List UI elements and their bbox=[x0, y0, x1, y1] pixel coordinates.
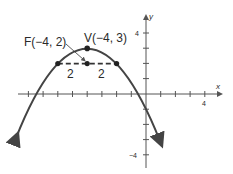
vertex-label: V(−4, 3) bbox=[84, 31, 127, 45]
latus-left-endpoint bbox=[55, 61, 60, 66]
y-tick-label-4: 4 bbox=[135, 30, 139, 37]
y-tick-label-neg4: −4 bbox=[129, 152, 137, 159]
parabola-diagram: x 4 y 4 −4 bbox=[0, 0, 233, 174]
latus-left-half-label: 2 bbox=[67, 67, 74, 81]
focus-label: F(−4, 2) bbox=[24, 35, 66, 49]
focus-point bbox=[85, 61, 90, 66]
x-axis: x 4 bbox=[18, 82, 221, 107]
latus-right-endpoint bbox=[114, 61, 119, 66]
focus-leader-line bbox=[66, 44, 84, 60]
latus-right-half-label: 2 bbox=[98, 67, 105, 81]
y-axis-label: y bbox=[148, 12, 154, 21]
x-axis-label: x bbox=[215, 82, 221, 91]
x-tick-label-4: 4 bbox=[202, 100, 206, 107]
vertex-point bbox=[84, 46, 90, 52]
y-axis: y 4 −4 bbox=[129, 12, 154, 168]
